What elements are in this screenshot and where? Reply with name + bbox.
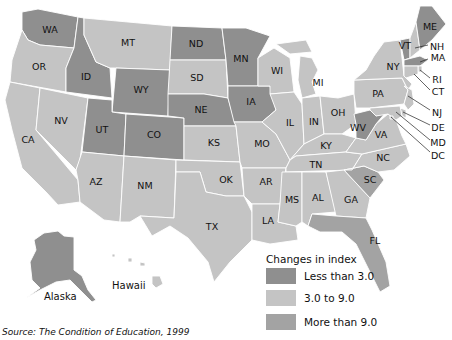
- label-sc: SC: [364, 174, 377, 185]
- label-mt: MT: [121, 37, 135, 48]
- label-pa: PA: [372, 88, 384, 99]
- label-ut: UT: [96, 124, 109, 135]
- label-ne: NE: [194, 104, 207, 115]
- label-ky: KY: [320, 140, 332, 151]
- legend-label-high: More than 9.0: [304, 316, 377, 328]
- legend-label-mid: 3.0 to 9.0: [304, 292, 355, 304]
- label-ok: OK: [219, 174, 233, 185]
- label-nh: NH: [430, 41, 444, 52]
- label-ia: IA: [246, 96, 256, 107]
- alaska-label: Alaska: [44, 291, 77, 302]
- label-wi: WI: [271, 65, 283, 76]
- us-choropleth-map: WA OR CA NV ID MT WY UT CO AZ NM ND SD N…: [0, 0, 452, 340]
- label-md: MD: [430, 137, 446, 148]
- legend-item-high: More than 9.0: [266, 314, 377, 330]
- leader-de: [403, 112, 430, 125]
- legend-swatch-mid: [266, 290, 296, 306]
- label-dc: DC: [431, 150, 445, 161]
- label-tx: TX: [205, 221, 219, 232]
- label-fl: FL: [370, 235, 381, 246]
- label-or: OR: [32, 61, 46, 72]
- label-la: LA: [262, 215, 275, 226]
- label-nv: NV: [54, 115, 68, 126]
- label-va: VA: [375, 129, 388, 140]
- label-mn: MN: [233, 53, 248, 64]
- label-co: CO: [147, 129, 161, 140]
- label-il: IL: [286, 117, 295, 128]
- label-ma: MA: [431, 52, 446, 63]
- label-nd: ND: [189, 38, 203, 49]
- legend-item-mid: 3.0 to 9.0: [266, 290, 355, 306]
- label-ar: AR: [259, 176, 272, 187]
- label-nm: NM: [137, 180, 152, 191]
- label-ca: CA: [21, 134, 35, 145]
- label-ct: CT: [432, 86, 445, 97]
- label-tn: TN: [309, 159, 323, 170]
- hawaii-label: Hawaii: [112, 280, 146, 291]
- label-ga: GA: [344, 194, 358, 205]
- label-ri: RI: [432, 74, 441, 85]
- label-mo: MO: [254, 138, 270, 149]
- label-ny: NY: [387, 61, 400, 72]
- label-vt: VT: [399, 40, 411, 51]
- source-note: Source: The Condition of Education, 1999: [2, 327, 189, 337]
- label-de: DE: [431, 122, 444, 133]
- label-az: AZ: [89, 176, 102, 187]
- label-wy: WY: [133, 84, 148, 95]
- label-wv: WV: [350, 122, 366, 133]
- label-wa: WA: [42, 24, 58, 35]
- leader-ri: [420, 70, 430, 78]
- legend-title: Changes in index: [266, 253, 357, 265]
- state-az: [76, 152, 124, 222]
- label-in: IN: [309, 116, 319, 127]
- label-nc: NC: [376, 152, 390, 163]
- label-ms: MS: [285, 194, 299, 205]
- label-nj: NJ: [432, 107, 442, 118]
- legend-label-low: Less than 3.0: [304, 270, 374, 282]
- label-ks: KS: [208, 137, 220, 148]
- legend-swatch-high: [266, 314, 296, 330]
- label-mi: MI: [313, 77, 324, 88]
- label-al: AL: [312, 192, 324, 203]
- label-oh: OH: [331, 107, 346, 118]
- legend-item-low: Less than 3.0: [266, 268, 374, 284]
- label-sd: SD: [190, 72, 203, 83]
- label-me: ME: [423, 21, 437, 32]
- legend-swatch-low: [266, 268, 296, 284]
- label-id: ID: [81, 71, 91, 82]
